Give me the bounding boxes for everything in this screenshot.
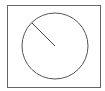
radius-line bbox=[32, 23, 55, 46]
frame-rect bbox=[8, 6, 101, 88]
diagram-canvas bbox=[0, 0, 105, 91]
